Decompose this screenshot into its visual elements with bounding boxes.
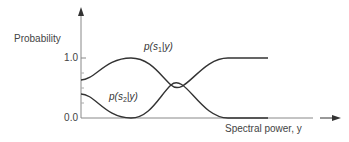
x-axis-arrow-icon [332, 115, 341, 121]
x-axis-label: Spectral power, y [225, 123, 302, 134]
y-tick-label-bottom: 0.0 [54, 112, 78, 123]
series1-prefix: p(s [144, 41, 158, 52]
series-label-p-s1: p(s1|y) [144, 41, 173, 53]
series2-suffix: |y) [127, 91, 138, 102]
series2-prefix: p(s [109, 91, 123, 102]
series1-suffix: |y) [162, 41, 173, 52]
y-tick-label-top: 1.0 [54, 52, 78, 63]
y-axis-arrow-icon [78, 7, 84, 16]
y-axis-label: Probability [14, 33, 61, 44]
series-label-p-s2: p(s2|y) [109, 91, 138, 103]
chart-canvas [0, 0, 349, 142]
